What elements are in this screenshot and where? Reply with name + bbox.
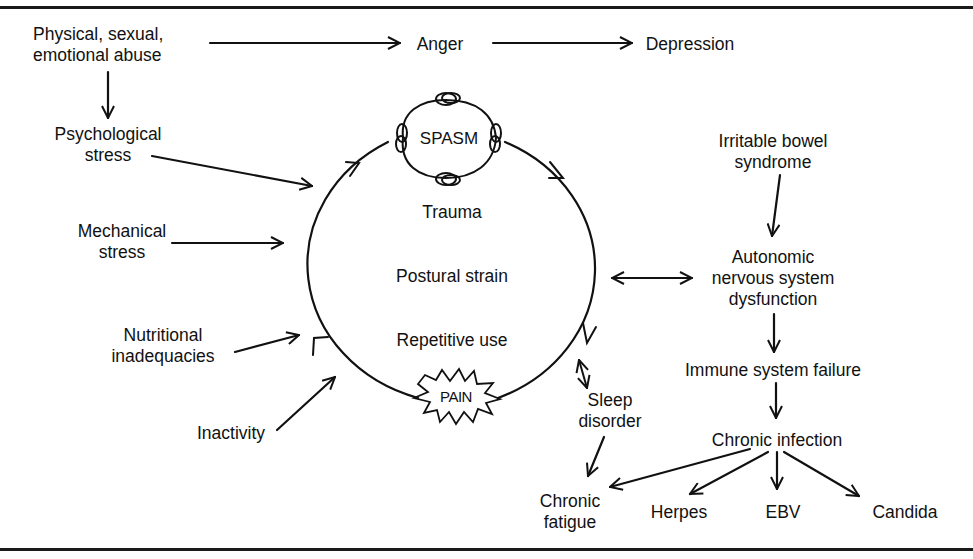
label-inactivity: Inactivity bbox=[197, 423, 265, 444]
label-mechanical-stress: Mechanical stress bbox=[78, 221, 167, 263]
arrow-infection-to-fatigue bbox=[610, 449, 750, 487]
label-depression: Depression bbox=[646, 34, 735, 55]
arrow-psych-to-cycle bbox=[152, 156, 312, 186]
arrow-inactivity-to-cycle bbox=[277, 377, 335, 430]
arrow-infection-to-candida bbox=[784, 452, 859, 496]
label-herpes: Herpes bbox=[651, 502, 707, 523]
label-spasm: SPASM bbox=[420, 128, 478, 149]
label-sleep-disorder: Sleep disorder bbox=[578, 390, 641, 432]
label-postural-strain: Postural strain bbox=[396, 266, 508, 287]
label-pain: PAIN bbox=[440, 386, 472, 407]
label-chronic-infection: Chronic infection bbox=[712, 430, 842, 451]
label-chronic-fatigue: Chronic fatigue bbox=[540, 491, 600, 533]
label-candida: Candida bbox=[872, 502, 937, 523]
label-repetitive-use: Repetitive use bbox=[397, 330, 508, 351]
label-trauma: Trauma bbox=[422, 202, 482, 223]
label-immune-system-failure: Immune system failure bbox=[685, 360, 861, 381]
label-nutritional-inadequacies: Nutritional inadequacies bbox=[111, 325, 214, 367]
label-anger: Anger bbox=[417, 34, 464, 55]
diagram-canvas: Physical, sexual, emotional abuse Anger … bbox=[0, 0, 973, 559]
label-irritable-bowel-syndrome: Irritable bowel syndrome bbox=[719, 131, 828, 173]
label-ebv: EBV bbox=[765, 502, 800, 523]
label-psychological-stress: Psychological stress bbox=[55, 124, 162, 166]
arrow-infection-to-herpes bbox=[690, 452, 768, 494]
cycle-direction-arrows bbox=[313, 162, 596, 355]
label-abuse: Physical, sexual, emotional abuse bbox=[33, 24, 163, 66]
arrow-sleep-to-fatigue bbox=[588, 437, 604, 476]
arrow-ibs-to-ans bbox=[772, 175, 780, 236]
arrow-nutrition-to-cycle bbox=[235, 335, 299, 352]
arrow-cycle-sleep-bidirectional bbox=[579, 360, 587, 388]
label-autonomic-dysfunction: Autonomic nervous system dysfunction bbox=[712, 247, 835, 310]
